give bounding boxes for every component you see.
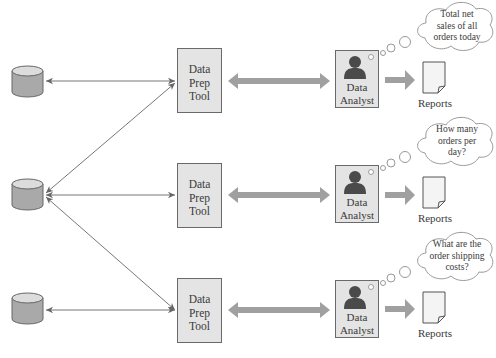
data-analyst-box[interactable]: Data Analyst	[335, 280, 379, 338]
label-line: Data	[178, 63, 221, 77]
thought-text: How many orders per day?	[422, 124, 492, 159]
data-prep-tool-label: Data Prep Tool	[178, 178, 221, 219]
data-analyst-label: Data Analyst	[336, 311, 378, 337]
thought-text: What are the order shipping costs?	[419, 239, 495, 274]
connector-lines	[46, 81, 175, 310]
thought-line: How many	[422, 124, 492, 136]
double-arrow-icon	[228, 187, 330, 203]
data-analyst-box[interactable]: Data Analyst	[335, 50, 379, 108]
reports-label: Reports	[410, 97, 460, 110]
connector-db2-prep3	[46, 197, 175, 310]
database-icon	[12, 66, 43, 97]
label-line: Data	[178, 293, 221, 307]
label-line: Data	[336, 81, 378, 94]
connector-db2-prep1	[46, 83, 175, 193]
right-arrow-icon	[385, 70, 415, 90]
data-prep-tool-box[interactable]: Data Prep Tool	[177, 48, 222, 113]
thick-double-arrows	[228, 73, 330, 318]
data-prep-tool-box[interactable]: Data Prep Tool	[177, 163, 222, 228]
reports-label: Reports	[410, 212, 460, 225]
label-line: Prep	[178, 192, 221, 206]
thought-line: orders today	[422, 32, 492, 44]
data-prep-tool-label: Data Prep Tool	[178, 63, 221, 104]
document-icon	[423, 177, 445, 208]
data-prep-tool-label: Data Prep Tool	[178, 293, 221, 334]
data-analyst-box[interactable]: Data Analyst	[335, 165, 379, 223]
double-arrow-icon	[228, 302, 330, 318]
thought-line: day?	[422, 147, 492, 159]
label-line: Analyst	[336, 94, 378, 107]
diagram-canvas	[0, 0, 496, 358]
data-analyst-label: Data Analyst	[336, 196, 378, 222]
data-prep-tool-box[interactable]: Data Prep Tool	[177, 278, 222, 343]
label-line: Data	[178, 178, 221, 192]
label-line: Tool	[178, 320, 221, 334]
thought-line: order shipping	[419, 251, 495, 263]
thought-text: Total net sales of all orders today	[422, 9, 492, 44]
right-arrow-icon	[385, 299, 415, 319]
reports-label: Reports	[410, 327, 460, 340]
thought-line: Total net	[422, 9, 492, 21]
label-line: Prep	[178, 307, 221, 321]
document-icon	[423, 292, 445, 323]
label-line: Tool	[178, 90, 221, 104]
document-icon	[423, 62, 445, 93]
label-line: Prep	[178, 77, 221, 91]
label-line: Analyst	[336, 209, 378, 222]
right-arrow-icon	[385, 185, 415, 205]
data-analyst-label: Data Analyst	[336, 81, 378, 107]
database-icon	[12, 293, 43, 324]
label-line: Data	[336, 311, 378, 324]
double-arrow-icon	[228, 73, 330, 89]
label-line: Tool	[178, 205, 221, 219]
database-icon	[12, 179, 43, 210]
thought-line: sales of all	[422, 21, 492, 33]
label-line: Analyst	[336, 324, 378, 337]
label-line: Data	[336, 196, 378, 209]
thought-line: costs?	[419, 262, 495, 274]
thought-line: What are the	[419, 239, 495, 251]
thought-line: orders per	[422, 136, 492, 148]
